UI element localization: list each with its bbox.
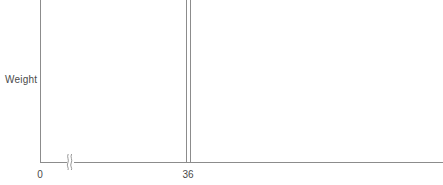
chart-canvas: Weight 0 36	[0, 0, 443, 185]
y-axis-title: Weight	[5, 74, 37, 85]
y-axis-line	[40, 0, 41, 163]
x-axis-line-right-segment	[74, 162, 443, 163]
axis-break-icon	[65, 153, 75, 171]
data-vertical-line-right	[190, 0, 191, 162]
x-axis-line-left-segment	[40, 162, 67, 163]
data-vertical-line-left	[186, 0, 187, 162]
x-axis-tick-label-origin: 0	[34, 169, 46, 180]
x-axis-tick-label-36: 36	[179, 169, 197, 180]
